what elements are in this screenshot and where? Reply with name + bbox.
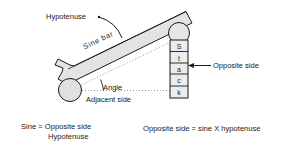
stack-letter: c <box>170 77 188 84</box>
formula-left-numerator-line: Sine = Opposite side <box>21 122 91 132</box>
label-adjacent-side: Adjacent side <box>86 96 131 104</box>
label-angle: Angle <box>103 84 122 92</box>
sine-bar-diagram: Hypotenuse Sine bar Angle Adjacent side … <box>0 0 292 150</box>
label-hypotenuse: Hypotenuse <box>46 13 86 21</box>
stack-letter: t <box>170 55 188 62</box>
formula-left-denominator: Hypotenuse <box>48 132 91 142</box>
opposite-side-leader-line <box>188 63 211 68</box>
formula-sine-definition: Sine = Opposite side Hypotenuse <box>21 122 91 143</box>
stack-letter: S <box>170 43 188 50</box>
label-opposite-side: Opposite side <box>213 62 259 70</box>
stack-letter: k <box>170 89 188 96</box>
left-roller-icon <box>59 79 82 102</box>
stack-letter: a <box>170 66 188 73</box>
formula-opposite-side: Opposite side = sine X hypotenuse <box>143 124 261 134</box>
